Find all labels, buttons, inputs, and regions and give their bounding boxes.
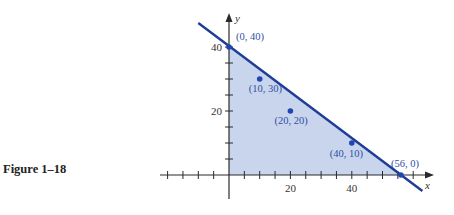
y-tick-label: 20 bbox=[211, 105, 223, 117]
x-axis-arrow-icon bbox=[425, 172, 434, 179]
point-label: (56, 0) bbox=[391, 158, 419, 170]
point-label: (20, 20) bbox=[274, 115, 308, 127]
x-axis-label: x bbox=[424, 179, 430, 191]
figure-caption: Figure 1–18 bbox=[3, 162, 66, 177]
data-point bbox=[226, 44, 232, 50]
point-label: (10, 30) bbox=[249, 83, 283, 95]
data-point bbox=[257, 76, 263, 82]
x-tick-label: 40 bbox=[346, 182, 358, 194]
data-point bbox=[288, 108, 294, 114]
y-axis-label: y bbox=[234, 12, 240, 24]
point-label: (0, 40) bbox=[236, 31, 264, 43]
x-tick-label: 20 bbox=[285, 182, 297, 194]
data-point bbox=[398, 172, 404, 178]
point-label: (40, 10) bbox=[330, 148, 364, 160]
y-tick-label: 40 bbox=[211, 41, 223, 53]
data-point bbox=[349, 140, 355, 146]
chart: 20402040xy(0, 40)(10, 30)(20, 20)(40, 10… bbox=[0, 0, 454, 215]
y-axis-arrow-icon bbox=[226, 13, 233, 22]
